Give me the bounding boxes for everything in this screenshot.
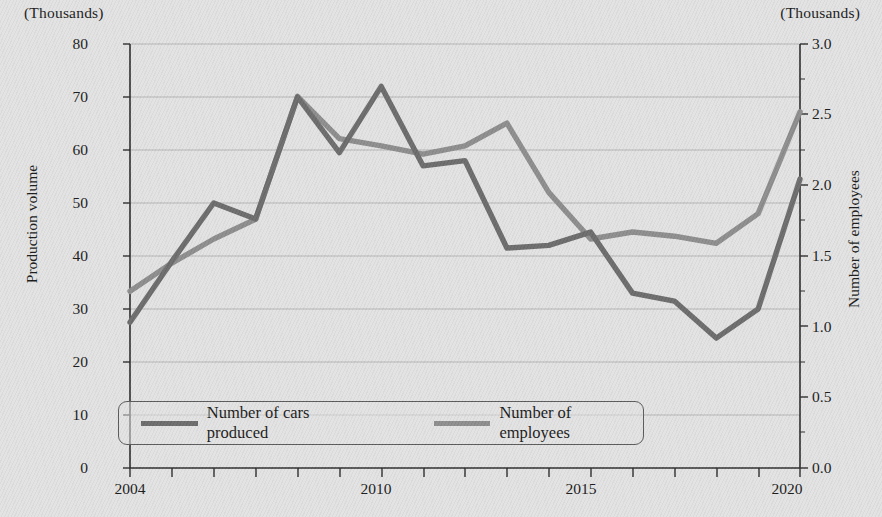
legend-swatch-cars	[141, 421, 198, 426]
legend-label-cars: Number of cars produced	[207, 403, 372, 443]
legend-item-cars[interactable]: Number of cars produced	[141, 403, 372, 443]
legend-item-employees[interactable]: Number of employees	[434, 403, 643, 443]
chart-legend: Number of cars produced Number of employ…	[118, 401, 644, 445]
right-axis-ticks	[800, 44, 808, 468]
series-line-number-of-employees	[130, 96, 800, 291]
legend-swatch-employees	[434, 421, 491, 426]
legend-label-employees: Number of employees	[499, 403, 643, 443]
x-axis-ticks	[130, 468, 800, 477]
series-line-cars-corrected	[130, 86, 800, 338]
chart-container: (Thousands) (Thousands) Production volum…	[0, 0, 882, 517]
